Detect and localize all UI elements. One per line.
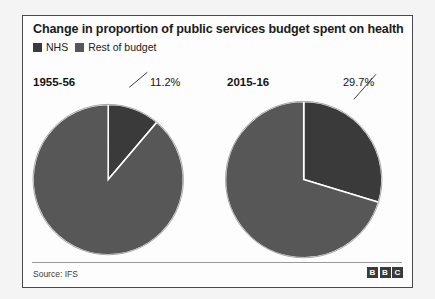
chart-title: Change in proportion of public services … bbox=[33, 22, 405, 36]
chart-legend: NHS Rest of budget bbox=[33, 42, 156, 53]
pie-percent-label-1955-56: 11.2% bbox=[150, 76, 180, 88]
pie-slice-nhs bbox=[304, 101, 382, 202]
legend-label-nhs: NHS bbox=[46, 42, 68, 53]
pie-slice-rest-of-budget bbox=[33, 104, 183, 254]
pie-year-label-1955-56: 1955-56 bbox=[33, 76, 75, 88]
bbc-logo: B B C bbox=[367, 267, 403, 278]
legend-label-rest-of-budget: Rest of budget bbox=[88, 42, 156, 53]
pie-outline bbox=[33, 104, 183, 254]
bbc-logo-letter-b1: B bbox=[367, 267, 378, 278]
pie-leader-line bbox=[129, 72, 147, 87]
pie-slice-rest-of-budget bbox=[226, 101, 379, 257]
chart-footer: Source: IFS B B C bbox=[32, 267, 403, 285]
legend-item-nhs: NHS bbox=[33, 42, 68, 53]
chart-panel: Change in proportion of public services … bbox=[22, 15, 413, 288]
pie-charts-svg bbox=[23, 16, 412, 287]
bbc-logo-letter-b2: B bbox=[380, 267, 391, 278]
footer-divider bbox=[32, 262, 402, 263]
legend-item-rest-of-budget: Rest of budget bbox=[75, 42, 156, 53]
pie-percent-label-2015-16: 29.7% bbox=[343, 76, 374, 88]
pie-slice-nhs bbox=[108, 104, 157, 179]
chart-page: Change in proportion of public services … bbox=[0, 0, 435, 299]
legend-swatch-rest-of-budget bbox=[75, 43, 84, 52]
source-label: Source: IFS bbox=[33, 269, 78, 279]
pie-year-label-2015-16: 2015-16 bbox=[227, 76, 269, 88]
bbc-logo-letter-c: C bbox=[392, 267, 403, 278]
legend-swatch-nhs bbox=[33, 43, 42, 52]
pie-outline bbox=[226, 101, 382, 257]
